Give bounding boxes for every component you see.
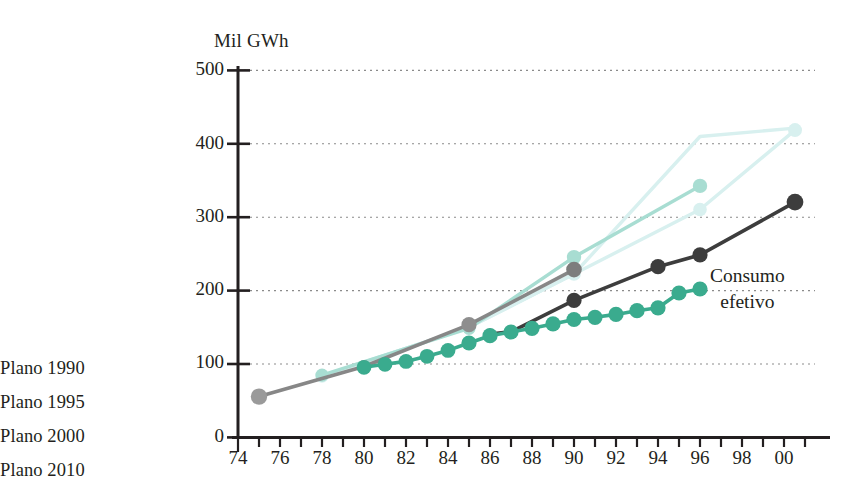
- series-consumo-efetivo-marker: [378, 357, 393, 372]
- series-consumo-efetivo-marker: [671, 285, 686, 300]
- series-consumo-efetivo-marker: [566, 312, 581, 327]
- series-consumo-efetivo-marker: [399, 354, 414, 369]
- series-consumo-efetivo-marker: [692, 281, 707, 296]
- series-plano-1990-marker: [566, 293, 581, 308]
- gridlines: [238, 70, 815, 364]
- series-plano-2010-marker: [788, 123, 802, 137]
- series-plano-1995-marker: [251, 388, 267, 404]
- series-plano-2010-line: [322, 128, 795, 376]
- series-plano-2000-line: [322, 186, 700, 375]
- series-consumo-efetivo-marker: [420, 349, 435, 364]
- series-consumo-efetivo-marker: [441, 343, 456, 358]
- series-consumo-efetivo-marker: [503, 324, 518, 339]
- y-axis: [227, 66, 250, 439]
- series-consumo-efetivo-marker: [545, 316, 560, 331]
- series-consumo-efetivo-marker: [482, 328, 497, 343]
- series-consumo-efetivo-marker: [357, 360, 372, 375]
- x-axis-ticks: [238, 437, 805, 452]
- series-plano-1990-marker: [787, 194, 804, 211]
- series-plano-1995-marker: [566, 262, 582, 278]
- chart-plot-area: [0, 0, 843, 504]
- series-plano-2000-marker: [693, 179, 707, 193]
- series-plano-1995-marker: [461, 317, 476, 332]
- series-consumo-efetivo-marker: [650, 300, 665, 315]
- series-plano-2010: [315, 123, 802, 383]
- series-consumo-efetivo-marker: [629, 303, 644, 318]
- series-plano-2010-line-seg: [322, 130, 795, 376]
- series-plano-2010-marker: [693, 203, 707, 217]
- series-plano-2000: [315, 179, 707, 382]
- series-consumo-efetivo-marker: [461, 335, 476, 350]
- x-axis: [232, 437, 830, 452]
- series-consumo-efetivo-marker: [587, 310, 602, 325]
- series-plano-1990-marker: [692, 247, 707, 262]
- series-plano-1990-marker: [650, 259, 665, 274]
- series-plano-1990: [485, 194, 804, 340]
- series-consumo-efetivo-marker: [608, 307, 623, 322]
- chart-root: Mil GWh 500 400 300 200 100 0 74 76 78 8…: [0, 0, 843, 504]
- series-consumo-efetivo-marker: [524, 321, 539, 336]
